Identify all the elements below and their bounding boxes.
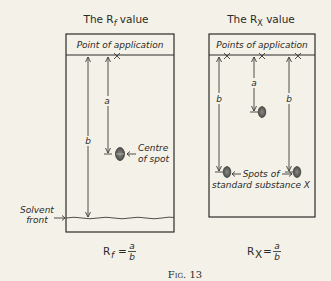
rx-standard-spot-left (223, 167, 231, 178)
svg-text:X: X (255, 248, 262, 260)
rf-formula: R f = a b (103, 241, 136, 262)
spot-pointer-arrow (127, 152, 136, 157)
chromatography-diagram: The Rf value Point of application b a (0, 0, 331, 281)
solvent-front-line (66, 217, 174, 219)
rf-header-label: Point of application (77, 40, 164, 50)
svg-text:=: = (118, 245, 127, 257)
rx-distance-b-right-label: b (286, 94, 292, 104)
svg-text:b: b (274, 252, 280, 262)
rx-distance-a-label: a (251, 78, 257, 88)
spot-label-line2: of spot (138, 154, 169, 164)
svg-text:b: b (129, 252, 135, 262)
rx-distance-b-left-label: b (216, 94, 222, 104)
rx-formula: R X = a b (247, 241, 281, 262)
spots-label-line1: Spots of (243, 169, 282, 179)
rx-standard-spot-right (293, 167, 301, 178)
application-point-cross-icon (224, 53, 230, 59)
spots-label-line2: standard substance X (212, 180, 311, 190)
solvent-label-line2: front (26, 215, 48, 225)
rx-sample-spot (258, 107, 266, 118)
svg-text:f: f (111, 250, 116, 260)
rf-title: The Rf value (82, 13, 148, 28)
spot-label-line1: Centre (138, 143, 169, 153)
svg-text:R: R (247, 245, 254, 257)
rx-distance-b-right-arrow (285, 57, 293, 172)
svg-text:a: a (129, 241, 135, 251)
svg-text:=: = (263, 245, 272, 257)
rx-title: The RX value (226, 13, 295, 28)
rx-distance-b-left-arrow (215, 57, 223, 172)
application-point-cross-icon (259, 53, 265, 59)
rf-distance-a-label: a (104, 96, 110, 106)
solvent-pointer-arrow (54, 216, 65, 221)
svg-text:R: R (103, 245, 110, 257)
figure-caption: Fig. 13 (168, 269, 202, 280)
svg-text:a: a (274, 241, 280, 251)
application-point-cross-icon (295, 53, 301, 59)
rf-distance-b-label: b (85, 136, 91, 146)
application-point-cross-icon (114, 53, 120, 59)
rx-panel: The RX value Points of application b (209, 13, 315, 262)
solvent-label-line1: Solvent (20, 205, 54, 215)
spots-pointer-left-arrow (232, 172, 241, 177)
rx-header-label: Points of application (216, 40, 308, 50)
rf-paper-strip (66, 34, 174, 232)
rf-panel: The Rf value Point of application b a (20, 13, 174, 262)
